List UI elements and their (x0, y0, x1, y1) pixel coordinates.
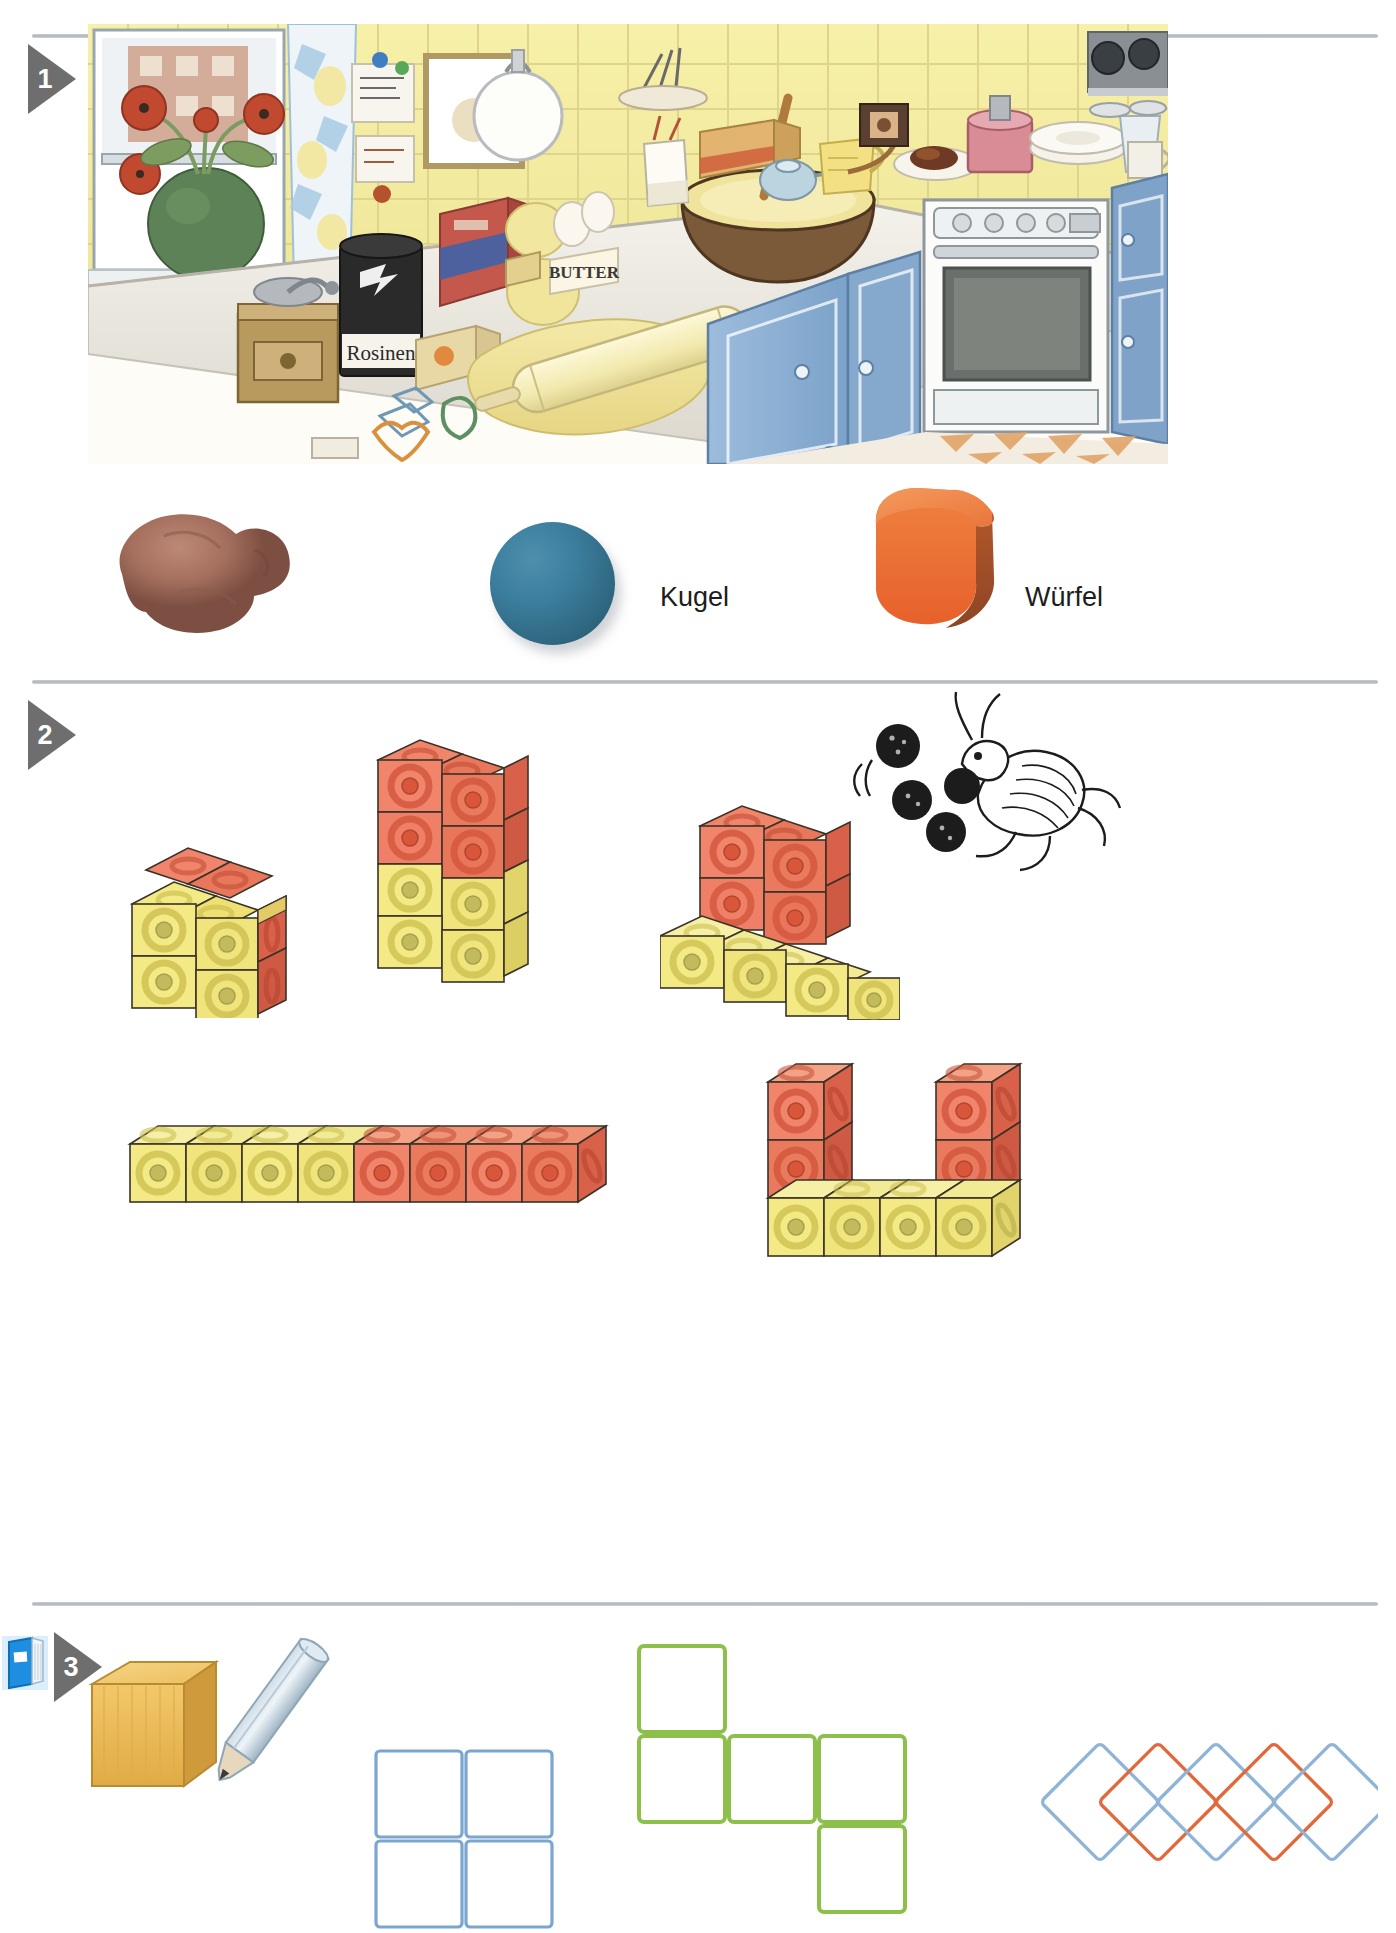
green-square-chain (636, 1643, 924, 1927)
blue-square-grid (373, 1748, 555, 1933)
grasshopper-juggling-balls (850, 690, 1130, 890)
building-u-shape (758, 1046, 1038, 1290)
building-tower-2x4 (364, 724, 544, 1028)
clay-sphere (490, 522, 615, 645)
workbook-icon (2, 1636, 48, 1690)
section-marker-2: 2 (28, 700, 76, 770)
clay-cube (866, 482, 1000, 637)
section-number-3: 3 (56, 1654, 86, 1681)
kitchen-baking-scene: Rosinen BUTTER (88, 24, 1168, 464)
diamond-chain (1038, 1646, 1378, 1910)
label-wuerfel: Würfel (1025, 582, 1103, 613)
divider-section-3 (32, 1602, 1378, 1606)
label-kugel: Kugel (660, 582, 729, 613)
divider-section-2 (32, 680, 1378, 684)
svg-text:Rosinen: Rosinen (347, 341, 416, 365)
clay-lump (104, 500, 300, 640)
building-block-2x2x2 (118, 818, 298, 1022)
section-number-1: 1 (30, 66, 60, 93)
building-row-of-eight (126, 1108, 626, 1242)
section-marker-1: 1 (28, 44, 76, 114)
pencil (188, 1630, 338, 1780)
section-number-2: 2 (30, 722, 60, 749)
svg-text:BUTTER: BUTTER (549, 263, 620, 282)
